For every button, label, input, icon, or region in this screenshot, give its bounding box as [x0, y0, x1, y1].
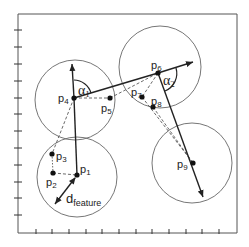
- point-p1: [74, 172, 79, 177]
- point-p5: [107, 95, 112, 100]
- direction-arrow-p6: [158, 62, 193, 73]
- label-p2: p2: [46, 176, 57, 190]
- point-p4: [71, 95, 76, 100]
- label-p5: p5: [101, 102, 112, 116]
- link-p3-p2: [52, 154, 53, 173]
- link-p2-p1: [53, 173, 77, 175]
- label-p7: p7: [131, 86, 142, 100]
- label-p9: p9: [177, 158, 188, 172]
- point-p9: [190, 160, 195, 165]
- link-p4-p3: [52, 98, 74, 154]
- segment-p1-p4: [74, 98, 77, 175]
- label-alpha2: α2: [163, 73, 175, 89]
- direction-arrow-p4: [72, 64, 74, 98]
- plot-frame: [18, 14, 237, 233]
- point-p3: [49, 151, 54, 156]
- label-alpha1: α1: [78, 83, 90, 99]
- feature-trajectory-diagram: p1 p2 p3 p4 p5 p6 p7 p8 p9 α1 α2 dfeatur…: [0, 0, 249, 247]
- label-p8: p8: [151, 95, 162, 109]
- label-p6: p6: [151, 59, 162, 73]
- point-p2: [50, 170, 55, 175]
- label-p1: p1: [80, 163, 91, 177]
- label-p4: p4: [58, 92, 69, 106]
- segment-p6-p9-arrow: [158, 73, 203, 197]
- label-dfeature: dfeature: [66, 191, 101, 208]
- label-p3: p3: [56, 150, 67, 164]
